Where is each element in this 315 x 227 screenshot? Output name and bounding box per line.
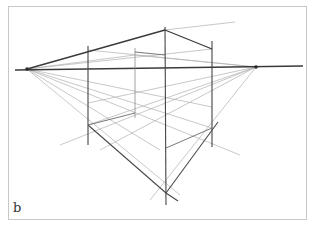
perspective-sketch <box>0 0 315 227</box>
construction-lines-left <box>27 49 240 195</box>
panel-label: b <box>13 200 21 215</box>
left-vanishing-point <box>25 67 29 71</box>
right-vanishing-point <box>254 65 258 69</box>
top-edges <box>27 30 212 69</box>
horizon-line <box>15 66 303 70</box>
